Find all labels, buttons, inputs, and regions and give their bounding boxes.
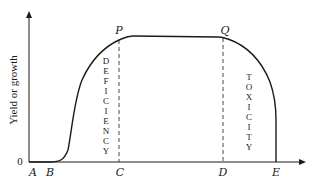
- yield-curve: [29, 36, 276, 162]
- point-label-q: Q: [220, 24, 229, 37]
- x-label-d: D: [218, 166, 228, 179]
- svg-text:C: C: [246, 112, 252, 122]
- svg-text:I: I: [105, 106, 108, 116]
- svg-text:O: O: [246, 82, 253, 92]
- y-origin-label: 0: [17, 155, 23, 167]
- svg-text:I: I: [248, 122, 251, 132]
- svg-text:C: C: [103, 96, 109, 106]
- point-label-p: P: [114, 24, 123, 37]
- x-label-c: C: [116, 166, 125, 179]
- yield-response-chart: Yield or growth 0 A B C D E P Q D E F I …: [0, 0, 316, 186]
- x-label-a: A: [28, 166, 37, 179]
- svg-text:I: I: [248, 102, 251, 112]
- svg-text:I: I: [105, 86, 108, 96]
- y-axis-label: Yield or growth: [7, 55, 19, 125]
- svg-text:E: E: [103, 66, 109, 76]
- svg-text:Y: Y: [103, 146, 110, 156]
- svg-text:C: C: [103, 136, 109, 146]
- svg-text:E: E: [103, 116, 109, 126]
- svg-text:N: N: [103, 126, 110, 136]
- x-label-b: B: [45, 166, 54, 179]
- svg-text:F: F: [103, 76, 108, 86]
- x-label-e: E: [271, 166, 280, 179]
- deficiency-region-label: D E F I C I E N C Y: [103, 56, 110, 156]
- svg-text:X: X: [246, 92, 253, 102]
- toxicity-region-label: T O X I C I T Y: [246, 72, 253, 152]
- y-axis-arrow-icon: [26, 11, 32, 18]
- svg-text:T: T: [246, 72, 252, 82]
- x-axis-arrow-icon: [299, 159, 306, 165]
- svg-text:T: T: [246, 132, 252, 142]
- svg-text:D: D: [103, 56, 110, 66]
- svg-text:Y: Y: [246, 142, 253, 152]
